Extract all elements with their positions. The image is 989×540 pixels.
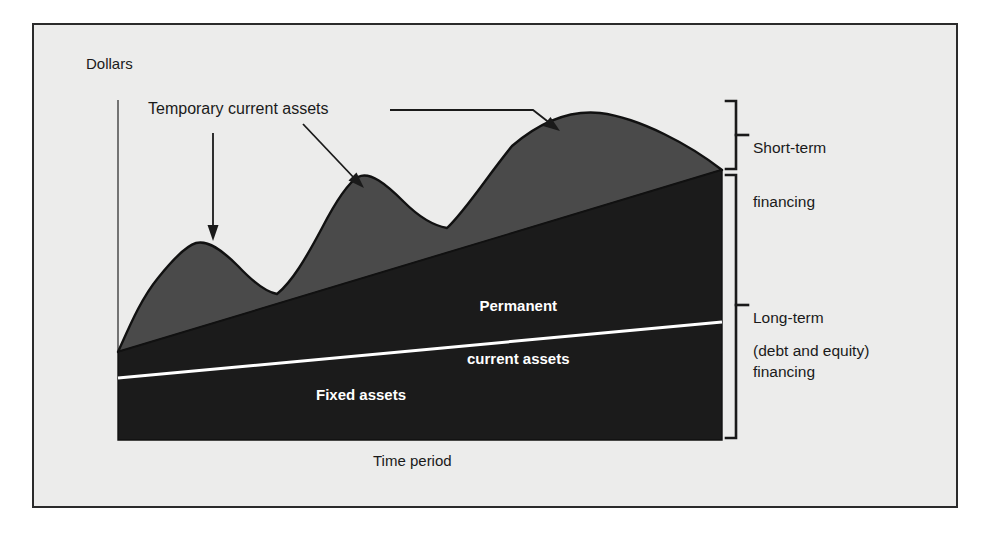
y-axis-label: Dollars: [86, 55, 133, 73]
permanent-current-assets-label-line1: Permanent: [467, 297, 570, 315]
short-term-financing-label-line1: Short-term: [753, 139, 826, 157]
permanent-current-assets-label-line2: current assets: [467, 350, 570, 368]
fixed-assets-label: Fixed assets: [316, 386, 406, 404]
short-term-financing-label-line2: financing: [753, 193, 826, 211]
long-term-financing-label-line1: Long-term: [753, 309, 824, 327]
short-term-financing-label: Short-term financing: [753, 102, 826, 248]
figure-root: Dollars Temporary current assets Permane…: [0, 0, 989, 540]
permanent-current-assets-label: Permanent current assets: [467, 262, 570, 404]
long-term-financing-note: (debt and equity): [753, 342, 869, 360]
temporary-current-assets-label: Temporary current assets: [148, 100, 329, 119]
long-term-financing-label-line2: financing: [753, 363, 824, 381]
x-axis-label: Time period: [373, 452, 452, 470]
